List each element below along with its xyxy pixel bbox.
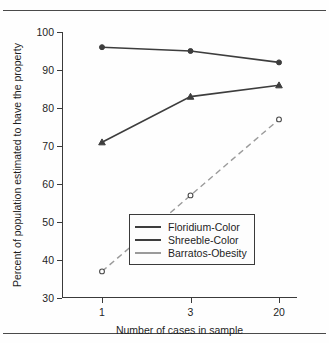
data-point [100, 269, 105, 274]
figure-container: Percent of population estimated to have … [0, 0, 329, 343]
legend-item-floridium-color: Floridium-Color [135, 220, 247, 233]
x-tick-label: 20 [273, 306, 285, 318]
legend-item-barratos-obesity: Barratos-Obesity [135, 246, 247, 259]
legend: Floridium-Color Shreeble-Color Barratos-… [129, 214, 255, 265]
y-tick-label: 60 [42, 178, 54, 190]
y-tick-label: 70 [42, 140, 54, 152]
legend-label: Shreeble-Color [168, 234, 239, 246]
legend-label: Floridium-Color [168, 221, 240, 233]
legend-item-shreeble-color: Shreeble-Color [135, 233, 247, 246]
y-tick-label: 40 [42, 254, 54, 266]
data-point [188, 193, 193, 198]
y-axis-title: Percent of population estimated to have … [10, 32, 24, 298]
y-tick-label: 30 [42, 292, 54, 304]
legend-label: Barratos-Obesity [168, 247, 247, 259]
x-tick [191, 298, 192, 303]
chart: Percent of population estimated to have … [0, 12, 329, 332]
y-tick-label: 50 [42, 216, 54, 228]
data-point [100, 45, 105, 50]
x-tick [279, 298, 280, 303]
data-point [277, 60, 282, 65]
data-point [277, 117, 282, 122]
x-tick-label: 3 [188, 306, 194, 318]
y-tick [57, 298, 62, 299]
legend-line-icon-barratos [135, 248, 161, 258]
x-tick [102, 298, 103, 303]
y-tick-label: 100 [36, 26, 54, 38]
legend-line-icon-shreeble [135, 235, 161, 245]
y-tick-label: 90 [42, 64, 54, 76]
y-tick-label: 80 [42, 102, 54, 114]
legend-line-icon-floridium [135, 222, 161, 232]
y-axis-title-text: Percent of population estimated to have … [11, 43, 23, 287]
x-tick-label: 1 [99, 306, 105, 318]
data-point [188, 49, 193, 54]
x-axis-title: Number of cases in sample [62, 324, 297, 336]
top-rule [3, 10, 326, 11]
